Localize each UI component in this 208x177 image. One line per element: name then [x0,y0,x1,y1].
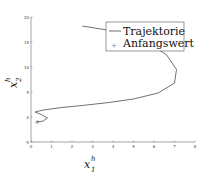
svg-text:3: 3 [91,144,94,149]
svg-text:h: h [91,155,96,163]
svg-text:20: 20 [24,15,30,20]
svg-text:-5: -5 [25,140,29,145]
svg-text:h: h [4,77,12,82]
svg-text:10: 10 [24,65,30,70]
legend-label-anfangswert: Anfangswert [122,37,195,50]
svg-text:0: 0 [30,144,33,149]
svg-text:x: x [84,158,91,171]
y-axis-label: x h 2 [4,77,23,88]
svg-text:2: 2 [15,77,23,83]
initial-value-marker [35,120,39,124]
svg-text:5: 5 [26,90,29,95]
svg-text:5: 5 [132,144,135,149]
svg-text:2: 2 [71,144,74,149]
svg-text:7: 7 [173,144,176,149]
svg-text:1: 1 [50,144,53,149]
svg-text:1: 1 [91,166,95,174]
svg-text:0: 0 [26,115,29,120]
svg-text:15: 15 [24,40,30,45]
svg-text:6: 6 [153,144,156,149]
legend-plus-icon: + [111,42,117,50]
svg-text:4: 4 [112,144,115,149]
x-axis-label: x h 1 [84,155,96,174]
svg-text:8: 8 [194,144,197,149]
chart: 012345678-505101520 Trajektorie + Anfang… [0,0,208,177]
legend: Trajektorie + Anfangswert [106,22,195,51]
